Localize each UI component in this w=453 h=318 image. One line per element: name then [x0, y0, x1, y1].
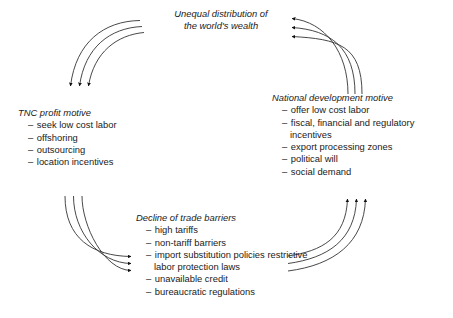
list-item: – outsourcing	[28, 144, 168, 156]
list-item: – political will	[282, 153, 448, 165]
bullet-dash: –	[146, 224, 152, 235]
list-item-label: offshoring	[37, 132, 78, 143]
list-item-label: export processing zones	[291, 141, 393, 152]
list-item-label: import substitution policies restrictive…	[154, 249, 308, 272]
list-item-label: location incentives	[37, 156, 114, 167]
list-item: – import substitution policies restricti…	[146, 249, 316, 274]
list-item-label: political will	[291, 153, 338, 164]
node-wealth-title-line1: Unequal distribution of	[174, 8, 267, 19]
list-item-label: offer low cost labor	[291, 104, 370, 115]
list-item: – offer low cost labor	[282, 104, 448, 116]
bullet-dash: –	[28, 119, 34, 130]
edge-tnc-to-trade	[65, 196, 131, 271]
node-tnc-items: – seek low cost labor – offshoring – out…	[18, 119, 168, 168]
list-item: – fiscal, financial and regulatory incen…	[282, 117, 448, 142]
list-item: – social demand	[282, 166, 448, 178]
diagram-canvas: Unequal distribution of the world's weal…	[0, 0, 453, 318]
list-item: – high tariffs	[146, 224, 316, 236]
bullet-dash: –	[282, 104, 288, 115]
node-wealth: Unequal distribution of the world's weal…	[146, 8, 296, 33]
bullet-dash: –	[282, 141, 288, 152]
list-item-label: social demand	[291, 166, 351, 177]
bullet-dash: –	[282, 166, 288, 177]
bullet-dash: –	[28, 132, 34, 143]
bullet-dash: –	[28, 156, 34, 167]
bullet-dash: –	[146, 286, 152, 297]
list-item-label: fiscal, financial and regulatory incenti…	[290, 117, 414, 140]
bullet-dash: –	[146, 237, 152, 248]
list-item: – offshoring	[28, 132, 168, 144]
bullet-dash: –	[282, 153, 288, 164]
bullet-dash: –	[28, 144, 34, 155]
list-item-label: bureaucratic regulations	[155, 286, 255, 297]
bullet-dash: –	[282, 117, 288, 128]
bullet-dash: –	[146, 273, 152, 284]
node-national: National development motive – offer low …	[272, 92, 448, 178]
list-item: – non-tariff barriers	[146, 237, 316, 249]
list-item: – seek low cost labor	[28, 119, 168, 131]
list-item-label: seek low cost labor	[37, 119, 117, 130]
edge-national-to-wealth	[292, 19, 362, 95]
list-item: – bureaucratic regulations	[146, 286, 316, 298]
list-item: – unavailable credit	[146, 273, 316, 285]
node-wealth-title: Unequal distribution of the world's weal…	[146, 8, 296, 33]
node-trade-title: Decline of trade barriers	[136, 212, 316, 224]
edge-wealth-to-tnc	[71, 21, 145, 87]
list-item: – export processing zones	[282, 141, 448, 153]
node-national-title: National development motive	[272, 92, 448, 104]
list-item: – location incentives	[28, 156, 168, 168]
node-tnc-title: TNC profit motive	[18, 107, 168, 119]
bullet-dash: –	[146, 249, 152, 260]
node-tnc: TNC profit motive – seek low cost labor …	[18, 107, 168, 168]
node-trade: Decline of trade barriers – high tariffs…	[136, 212, 316, 298]
list-item-label: high tariffs	[155, 224, 198, 235]
node-national-items: – offer low cost labor – fiscal, financi…	[272, 104, 448, 178]
list-item-label: non-tariff barriers	[155, 237, 226, 248]
node-trade-items: – high tariffs – non-tariff barriers – i…	[136, 224, 316, 298]
node-wealth-title-line2: the world's wealth	[184, 20, 258, 31]
list-item-label: outsourcing	[37, 144, 85, 155]
list-item-label: unavailable credit	[155, 273, 228, 284]
